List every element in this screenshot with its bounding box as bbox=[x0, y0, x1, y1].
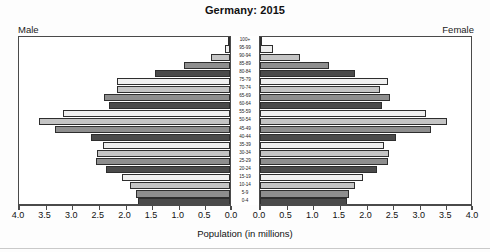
bar-female-65-69 bbox=[260, 94, 390, 101]
bar-male-90-94 bbox=[211, 54, 230, 61]
axis-tick-label: 1.0 bbox=[297, 210, 327, 220]
bar-male-85-89 bbox=[184, 62, 230, 69]
male-plot-panel bbox=[18, 36, 231, 205]
male-side-label: Male bbox=[18, 24, 39, 35]
age-label-60-64: 60-64 bbox=[231, 100, 259, 107]
age-label-55-59: 55-59 bbox=[231, 108, 259, 115]
female-plot-panel bbox=[259, 36, 472, 205]
axis-tick-label: 0.5 bbox=[189, 210, 219, 220]
axis-tick-label: 3.0 bbox=[404, 210, 434, 220]
bar-male-15-19 bbox=[122, 174, 230, 181]
bar-female-30-34 bbox=[260, 150, 389, 157]
bar-male-30-34 bbox=[97, 150, 230, 157]
bar-male-35-39 bbox=[103, 142, 230, 149]
age-label-30-34: 30-34 bbox=[231, 149, 259, 156]
axis-tick-label: 1.5 bbox=[324, 210, 354, 220]
chart-figure: Germany: 2015 Male Female 0-45-910-1415-… bbox=[0, 0, 490, 252]
axis-tick-label: 4.0 bbox=[3, 210, 33, 220]
axis-tick-label: 2.0 bbox=[110, 210, 140, 220]
chart-title: Germany: 2015 bbox=[0, 4, 490, 16]
age-label-95-99: 95-99 bbox=[231, 44, 259, 51]
axis-tick-label: 2.0 bbox=[351, 210, 381, 220]
axis-tick-label: 4.0 bbox=[457, 210, 487, 220]
bar-male-60-64 bbox=[109, 102, 230, 109]
axis-tick-label: 3.5 bbox=[430, 210, 460, 220]
age-label-20-24: 20-24 bbox=[231, 165, 259, 172]
bar-male-0-4 bbox=[138, 198, 230, 205]
age-label-75-79: 75-79 bbox=[231, 76, 259, 83]
age-label-10-14: 10-14 bbox=[231, 181, 259, 188]
age-label-50-54: 50-54 bbox=[231, 116, 259, 123]
age-label-15-19: 15-19 bbox=[231, 173, 259, 180]
bar-male-45-49 bbox=[55, 126, 230, 133]
axis-tick-label: 2.5 bbox=[377, 210, 407, 220]
age-group-axis: 0-45-910-1415-1920-2425-2930-3435-3940-4… bbox=[231, 36, 259, 205]
bar-female-70-74 bbox=[260, 86, 380, 93]
axis-tick-label: 3.5 bbox=[30, 210, 60, 220]
bar-female-100+ bbox=[260, 37, 262, 44]
female-side-label: Female bbox=[442, 24, 474, 35]
age-label-85-89: 85-89 bbox=[231, 60, 259, 67]
bar-female-95-99 bbox=[260, 45, 273, 52]
bar-male-100+ bbox=[228, 37, 230, 44]
age-label-0-4: 0-4 bbox=[231, 197, 259, 204]
age-label-80-84: 80-84 bbox=[231, 68, 259, 75]
axis-tick-label: 0.0 bbox=[244, 210, 274, 220]
bar-female-15-19 bbox=[260, 174, 363, 181]
age-label-100+: 100+ bbox=[231, 36, 259, 43]
age-label-5-9: 5-9 bbox=[231, 189, 259, 196]
bar-male-80-84 bbox=[155, 70, 230, 77]
bar-male-70-74 bbox=[117, 86, 230, 93]
axis-tick-label: 1.5 bbox=[136, 210, 166, 220]
axis-tick-label: 1.0 bbox=[163, 210, 193, 220]
age-label-35-39: 35-39 bbox=[231, 141, 259, 148]
age-label-45-49: 45-49 bbox=[231, 125, 259, 132]
age-label-90-94: 90-94 bbox=[231, 52, 259, 59]
bar-female-50-54 bbox=[260, 118, 447, 125]
bar-male-5-9 bbox=[136, 190, 230, 197]
bar-male-40-44 bbox=[91, 134, 231, 141]
bar-female-40-44 bbox=[260, 134, 396, 141]
axis-tick-label: 0.0 bbox=[216, 210, 246, 220]
bar-female-35-39 bbox=[260, 142, 384, 149]
bar-male-50-54 bbox=[39, 118, 230, 125]
bar-female-80-84 bbox=[260, 70, 355, 77]
bar-male-55-59 bbox=[63, 110, 230, 117]
age-label-65-69: 65-69 bbox=[231, 92, 259, 99]
bar-male-20-24 bbox=[106, 166, 230, 173]
age-label-70-74: 70-74 bbox=[231, 84, 259, 91]
bar-female-45-49 bbox=[260, 126, 431, 133]
bar-male-25-29 bbox=[96, 158, 230, 165]
bar-male-75-79 bbox=[117, 78, 230, 85]
bar-female-75-79 bbox=[260, 78, 388, 85]
bar-female-55-59 bbox=[260, 110, 426, 117]
x-axis-caption: Population (in millions) bbox=[0, 228, 490, 239]
bar-female-85-89 bbox=[260, 62, 329, 69]
bar-male-10-14 bbox=[130, 182, 230, 189]
bar-female-25-29 bbox=[260, 158, 388, 165]
bar-male-95-99 bbox=[225, 45, 230, 52]
age-label-25-29: 25-29 bbox=[231, 157, 259, 164]
age-label-40-44: 40-44 bbox=[231, 133, 259, 140]
bar-female-20-24 bbox=[260, 166, 377, 173]
axis-tick-label: 2.5 bbox=[83, 210, 113, 220]
bar-female-10-14 bbox=[260, 182, 355, 189]
bar-female-0-4 bbox=[260, 198, 347, 205]
bar-female-90-94 bbox=[260, 54, 300, 61]
bar-male-65-69 bbox=[104, 94, 230, 101]
page-divider bbox=[0, 248, 490, 249]
bar-female-5-9 bbox=[260, 190, 349, 197]
axis-tick-label: 0.5 bbox=[271, 210, 301, 220]
axis-tick-label: 3.0 bbox=[56, 210, 86, 220]
bar-female-60-64 bbox=[260, 102, 382, 109]
